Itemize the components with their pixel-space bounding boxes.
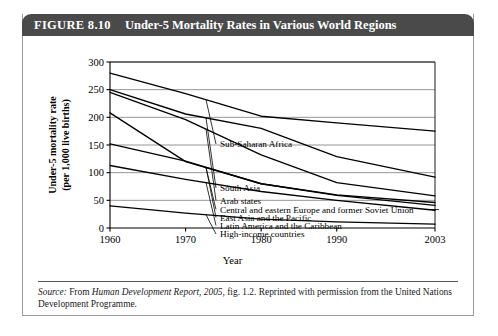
series-label-high-income-countries: High-income countries	[220, 229, 305, 239]
series-label-sub-saharan-africa: Sub-Saharan Africa	[220, 139, 292, 149]
y-tick-label: 0	[99, 223, 104, 234]
series-line-sub-saharan-africa	[110, 73, 435, 131]
x-tick-label: 1960	[100, 234, 121, 245]
figure-number: FIGURE 8.10	[34, 18, 111, 33]
series-line-latin-america-and-the-caribbean	[110, 165, 435, 210]
y-tick-label: 250	[88, 84, 104, 95]
x-tick-label: 1970	[175, 234, 196, 245]
series-line-south-asia	[110, 90, 435, 177]
y-tick-label: 300	[88, 57, 104, 68]
source-label: Source:	[38, 287, 67, 297]
y-tick-label: 150	[88, 140, 104, 151]
figure-title: Under-5 Mortality Rates in Various World…	[125, 18, 397, 33]
source-publication: Human Development Report, 2005	[92, 287, 223, 297]
x-tick-label: 1990	[326, 234, 347, 245]
y-tick-label: 200	[88, 112, 104, 123]
y-axis-title-line-2: (per 1,000 live births)	[60, 99, 72, 190]
source-note: Source: From Human Development Report, 2…	[38, 286, 462, 310]
source-divider	[38, 281, 458, 282]
y-tick-label: 50	[94, 195, 105, 206]
y-tick-label: 100	[88, 167, 104, 178]
mortality-line-chart: 05010015020025030019601970198019902003Ye…	[22, 36, 474, 276]
chart-region: 05010015020025030019601970198019902003Ye…	[22, 36, 474, 276]
x-axis-title: Year	[223, 255, 243, 266]
x-tick-label: 2003	[425, 234, 446, 245]
y-axis-title-line-1: Under-5 mortality rate	[47, 96, 58, 194]
figure-header: FIGURE 8.10 Under-5 Mortality Rates in V…	[22, 14, 474, 36]
series-label-south-asia: South Asia	[220, 183, 260, 193]
series-leader-line	[206, 118, 216, 188]
source-text-a: From	[67, 287, 92, 297]
